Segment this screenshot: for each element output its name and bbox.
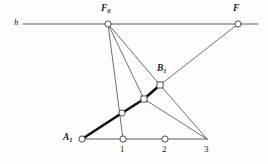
geometry-figure: h F0 F B1 A1 1 2 3 [0,0,268,164]
label-node-3: 3 [204,145,209,154]
ray-midpoint2-to-node-3 [144,99,207,139]
node-b1 [157,82,163,88]
label-b1: B1 [157,64,167,74]
node-f0 [105,21,111,27]
node-n1 [120,136,126,142]
label-node-2: 2 [162,145,167,154]
node-m1 [119,110,125,116]
ray-f0-to-midpoint-2 [108,24,144,99]
label-h: h [14,18,19,27]
label-f: F [233,4,239,14]
diagram-canvas [0,0,268,164]
label-node-1: 1 [120,145,125,154]
ray-f0-to-b1 [108,24,160,85]
node-n2 [162,136,168,142]
ray-b1-to-f [160,24,238,85]
label-f0: F0 [101,4,111,14]
label-a1: A1 [63,133,73,143]
node-a1 [79,136,85,142]
node-m2 [141,96,147,102]
node-f [235,21,241,27]
ray-b1-to-node-3 [160,85,207,139]
